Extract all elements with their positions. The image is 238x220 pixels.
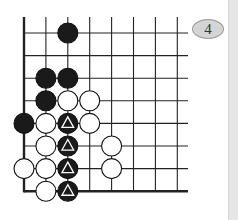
black-stone-marked: [58, 136, 78, 156]
black-stone-marked: [58, 113, 78, 133]
white-stone: [14, 159, 34, 179]
diagram-number-badge: 4: [192, 19, 224, 39]
white-stone: [36, 113, 56, 133]
scrollbar-strip: [228, 0, 238, 220]
white-stone: [80, 91, 100, 111]
black-stone: [36, 68, 56, 88]
white-stone: [102, 159, 122, 179]
white-stone: [58, 91, 78, 111]
black-stone-marked: [58, 159, 78, 179]
white-stone: [36, 181, 56, 201]
black-stone-marked: [58, 181, 78, 201]
white-stone: [36, 136, 56, 156]
white-stone: [80, 113, 100, 133]
white-stone: [102, 136, 122, 156]
white-stone: [36, 159, 56, 179]
black-stone: [36, 91, 56, 111]
black-stone: [14, 113, 34, 133]
black-stone: [58, 23, 78, 43]
black-stone: [58, 68, 78, 88]
diagram-number: 4: [204, 21, 212, 38]
